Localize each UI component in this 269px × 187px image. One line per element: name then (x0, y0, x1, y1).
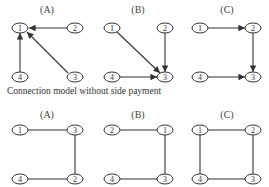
bottom-panel-c: (C) 1 2 4 3 (192, 109, 261, 184)
node-2: 2 (245, 125, 261, 135)
node-4: 4 (192, 72, 208, 82)
svg-text:2: 2 (73, 24, 77, 33)
node-2: 2 (67, 23, 83, 33)
node-1: 1 (104, 23, 120, 33)
node-3: 3 (245, 174, 261, 184)
panel-label: (B) (131, 4, 144, 16)
bottom-panel-a: (A) 1 3 4 2 (12, 109, 83, 184)
top-panel-b: (B) 1 2 3 4 (104, 4, 173, 82)
svg-text:1: 1 (18, 126, 22, 135)
top-panel-c: (C) 1 2 3 4 (192, 4, 261, 82)
node-2: 2 (104, 125, 120, 135)
svg-text:3: 3 (163, 73, 167, 82)
svg-text:2: 2 (163, 24, 167, 33)
node-4: 4 (104, 72, 120, 82)
node-1: 1 (157, 125, 173, 135)
node-2: 2 (157, 23, 173, 33)
node-4: 4 (104, 174, 120, 184)
svg-text:2: 2 (110, 126, 114, 135)
edge-1-to-3 (117, 32, 160, 73)
svg-text:1: 1 (163, 126, 167, 135)
svg-text:4: 4 (18, 73, 22, 82)
node-3: 3 (67, 125, 83, 135)
panel-label: (C) (220, 109, 233, 121)
node-1: 1 (192, 23, 208, 33)
svg-text:1: 1 (198, 24, 202, 33)
svg-text:4: 4 (198, 73, 202, 82)
node-1: 1 (192, 125, 208, 135)
svg-text:3: 3 (163, 175, 167, 184)
top-panel-a: (A) 1 2 3 4 (12, 4, 83, 82)
node-4: 4 (12, 174, 28, 184)
svg-text:4: 4 (18, 175, 22, 184)
edge-3-to-1 (27, 32, 68, 73)
svg-text:1: 1 (198, 126, 202, 135)
svg-text:3: 3 (251, 175, 255, 184)
svg-text:3: 3 (251, 73, 255, 82)
svg-text:4: 4 (110, 175, 114, 184)
node-3: 3 (245, 72, 261, 82)
node-1: 1 (12, 125, 28, 135)
svg-text:2: 2 (73, 175, 77, 184)
section-caption: Connection model without side payment (7, 86, 161, 96)
panel-label: (A) (40, 4, 54, 16)
node-4: 4 (192, 174, 208, 184)
svg-text:3: 3 (73, 126, 77, 135)
node-2: 2 (245, 23, 261, 33)
node-2: 2 (67, 174, 83, 184)
node-1: 1 (12, 23, 28, 33)
svg-text:4: 4 (198, 175, 202, 184)
svg-text:4: 4 (110, 73, 114, 82)
bottom-panel-b: (B) 2 1 4 3 (104, 109, 173, 184)
node-3: 3 (157, 174, 173, 184)
panel-label: (B) (131, 109, 144, 121)
panel-label: (C) (220, 4, 233, 16)
panel-label: (A) (40, 109, 54, 121)
svg-text:1: 1 (110, 24, 114, 33)
svg-text:2: 2 (251, 126, 255, 135)
node-4: 4 (12, 72, 28, 82)
svg-text:3: 3 (73, 73, 77, 82)
node-3: 3 (157, 72, 173, 82)
node-3: 3 (67, 72, 83, 82)
svg-text:2: 2 (251, 24, 255, 33)
svg-text:1: 1 (18, 24, 22, 33)
